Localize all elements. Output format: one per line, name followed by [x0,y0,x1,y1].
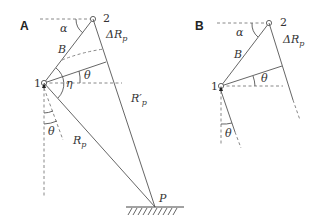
link-rp-prime-b-extension [293,100,300,120]
theta-top-label: θ [84,69,91,82]
alpha-label: α [60,22,68,35]
theta-bottom-label-b: θ [225,127,232,140]
point-1-label: 1 [34,77,41,90]
delta-rp-label: ΔRp [105,28,127,43]
theta-arc-top-b [253,76,255,86]
rp-prime-label: R′p [130,92,147,107]
alpha-arc-b [252,23,258,37]
tilted-line-b-extension [235,132,241,148]
theta-arc-bottom [44,111,53,113]
point-p-label: P [158,192,167,205]
theta-bottom-label: θ [48,125,55,138]
rp-label: Rp [72,134,86,149]
b-label: B [57,43,66,56]
theta-arc-top [79,71,80,83]
point-2-label-b: 2 [280,16,287,29]
tilted-line-b [221,91,235,132]
panel-a: A α B 2 ΔRp R′p θ η 1 [20,12,184,215]
theta-top-label-b: θ [261,72,268,85]
eta-label: η [66,77,73,90]
alpha-arc [76,19,83,33]
alpha-label-b: α [236,26,244,39]
b-label-b: B [233,48,242,61]
geometry-diagram: A α B 2 ΔRp R′p θ η 1 [0,0,332,221]
theta-line-b [221,66,282,86]
ground-hatch [128,208,177,215]
point-2-label: 2 [103,12,110,25]
theta-line [44,62,106,83]
link-rp-prime [93,19,155,207]
panel-a-label: A [20,19,29,33]
theta-arc-bottom-b [221,123,232,124]
delta-rp-label-b: ΔRp [282,33,304,48]
panel-b-label: B [195,19,204,33]
point-1-label-b: 1 [211,80,218,93]
panel-b: B α B 2 ΔRp θ 1 θ [195,16,304,148]
theta-arc-bottom-outer [44,121,57,124]
